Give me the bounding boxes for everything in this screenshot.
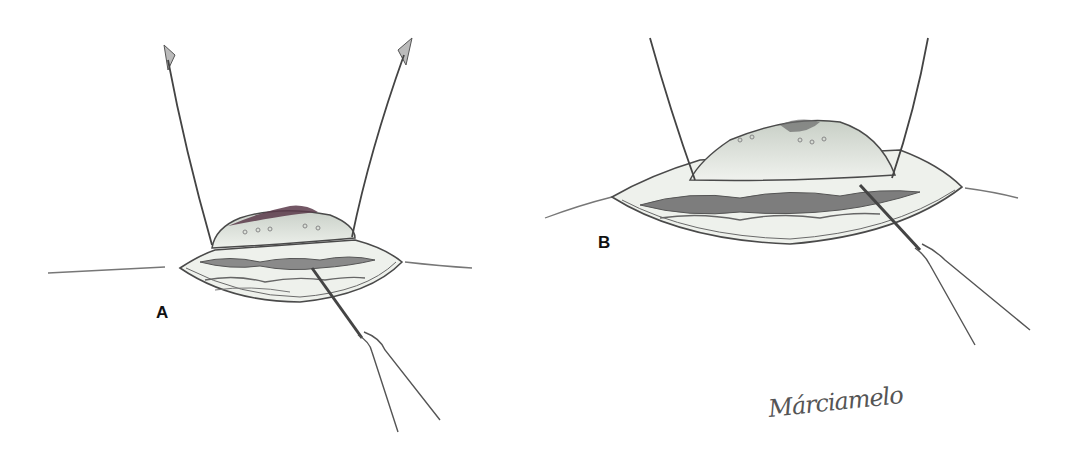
panel-a <box>48 38 472 432</box>
panel-label-a: A <box>156 303 168 322</box>
surgical-illustration: A B <box>0 0 1072 458</box>
illustration-canvas: A B Márciamelo <box>0 0 1072 458</box>
panel-b <box>545 38 1030 345</box>
panel-label-b: B <box>598 233 610 252</box>
